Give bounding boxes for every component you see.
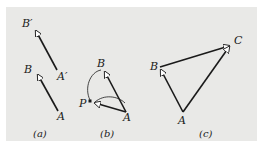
vector-figure: B′ A′ B A (a) B P A (b) B C A (c)	[0, 0, 265, 151]
label-b-prime: B′	[21, 17, 33, 30]
vector-a-c	[183, 47, 229, 112]
label-a-prime: A′	[56, 70, 68, 83]
caption-b: (b)	[100, 128, 114, 139]
vector-b-c	[160, 46, 229, 67]
label-a: A	[177, 114, 186, 127]
label-a: A	[122, 111, 131, 124]
panel-c: B C A (c)	[149, 34, 243, 139]
caption-a: (a)	[33, 128, 47, 139]
label-b: B	[149, 60, 158, 73]
point-p	[89, 100, 92, 103]
panel-a: B′ A′ B A (a)	[21, 17, 68, 139]
vector-a-b	[38, 75, 58, 111]
label-c: C	[234, 34, 243, 47]
caption-c: (c)	[199, 128, 213, 139]
label-p: P	[78, 97, 87, 110]
vector-a-b	[161, 70, 183, 112]
label-b: B	[23, 63, 32, 76]
label-a: A	[56, 110, 65, 123]
vector-a-prime-b-prime	[36, 31, 57, 70]
arc-b-to-p	[88, 70, 101, 100]
panel-b: B P A (b)	[78, 57, 131, 139]
label-b: B	[96, 57, 105, 70]
